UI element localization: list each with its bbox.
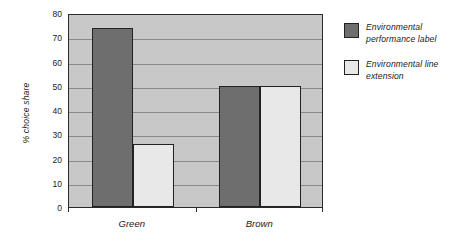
y-axis-tick-label: 80 [30,10,62,19]
x-axis-category-label: Green [119,218,145,229]
y-axis-tick-label: 30 [30,131,62,140]
legend-label: Environmental line extension [366,59,462,82]
plot-area [68,14,323,208]
y-axis-tick-label: 60 [30,58,62,67]
x-axis-tick-mark [322,208,323,212]
y-axis-tick-label: 0 [30,204,62,213]
legend-label: Environmental performance label [366,22,462,45]
legend-entry: Environmental line extension [344,59,468,82]
bar-chart-figure: % choice share 01020304050607080 GreenBr… [0,0,468,252]
legend-entry: Environmental performance label [344,22,468,45]
x-axis-tick-marks [68,208,323,213]
chart-legend: Environmental performance labelEnvironme… [344,22,468,96]
bar [92,28,133,207]
x-axis-category-label: Brown [246,218,273,229]
x-axis-tick-mark [68,208,69,212]
y-axis-tick-label: 20 [30,155,62,164]
y-axis-tick-labels: 01020304050607080 [30,14,62,208]
legend-color-swatch [344,23,359,38]
bars-layer [69,15,322,207]
y-axis-tick-label: 70 [30,34,62,43]
x-axis-tick-labels: GreenBrown [68,218,323,234]
legend-color-swatch [344,60,359,75]
bar [260,86,301,207]
y-axis-tick-label: 50 [30,83,62,92]
bar [219,86,260,207]
y-axis-tick-label: 40 [30,107,62,116]
x-axis-tick-mark [196,208,197,212]
y-axis-tick-label: 10 [30,180,62,189]
bar [133,144,174,207]
